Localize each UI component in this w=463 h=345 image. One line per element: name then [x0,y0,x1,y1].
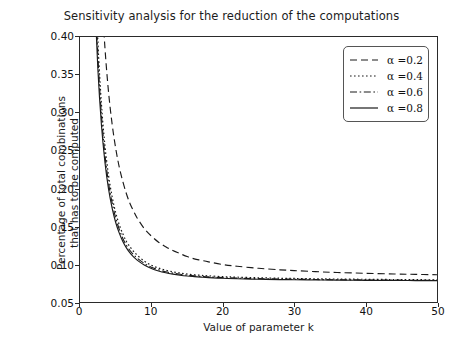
legend-item[interactable]: α =0.2 [349,52,424,68]
x-axis-tick-mark [151,303,152,307]
x-axis-tick-mark [223,303,224,307]
legend-item[interactable]: α =0.8 [349,100,424,116]
legend-item-label: α =0.6 [379,86,423,98]
legend-line-swatch [349,70,379,82]
figure: Sensitivity analysis for the reduction o… [0,0,463,345]
legend-line-swatch [349,102,379,114]
legend-line-swatch [349,86,379,98]
y-axis-label-line1: Percentage of total combinations [55,33,68,333]
legend-line-swatch [349,54,379,66]
x-axis-label: Value of parameter k [79,321,438,333]
legend-item-label: α =0.2 [379,54,423,66]
y-axis-label-line2: that has to be computed [68,33,81,333]
legend-item-label: α =0.4 [379,70,423,82]
x-axis-tick-mark [294,303,295,307]
legend-item[interactable]: α =0.6 [349,84,424,100]
y-axis-label: Percentage of total combinations that ha… [55,33,81,333]
chart-title: Sensitivity analysis for the reduction o… [0,9,463,23]
legend-item-label: α =0.8 [379,102,423,114]
x-axis-tick-mark [438,303,439,307]
legend: α =0.2α =0.4α =0.6α =0.8 [343,46,429,122]
x-axis-tick-mark [366,303,367,307]
legend-item[interactable]: α =0.4 [349,68,424,84]
